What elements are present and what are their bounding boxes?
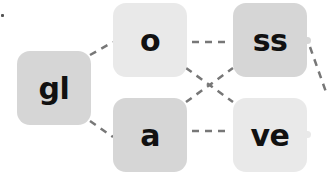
tile-label: a (140, 118, 160, 153)
tile-label: ve (251, 118, 290, 153)
connector-gl-a (90, 121, 113, 137)
tile-ss-connector-knob (304, 37, 311, 44)
tile-label: ss (253, 23, 288, 58)
connector-gl-o (90, 42, 113, 55)
connector-a-ss (186, 68, 233, 102)
tile-a[interactable]: a (113, 98, 187, 172)
tile-gl[interactable]: gl (17, 51, 91, 125)
word-diagram: gl o a ss ve (0, 0, 327, 178)
tile-label: gl (39, 71, 70, 106)
tile-ve-connector-knob (304, 131, 311, 138)
tile-o[interactable]: o (113, 3, 187, 77)
connector-ss-out (310, 47, 326, 92)
tile-ss[interactable]: ss (233, 3, 307, 77)
tile-ve[interactable]: ve (233, 98, 307, 172)
stray-dot (1, 14, 4, 17)
tile-label: o (140, 23, 160, 58)
